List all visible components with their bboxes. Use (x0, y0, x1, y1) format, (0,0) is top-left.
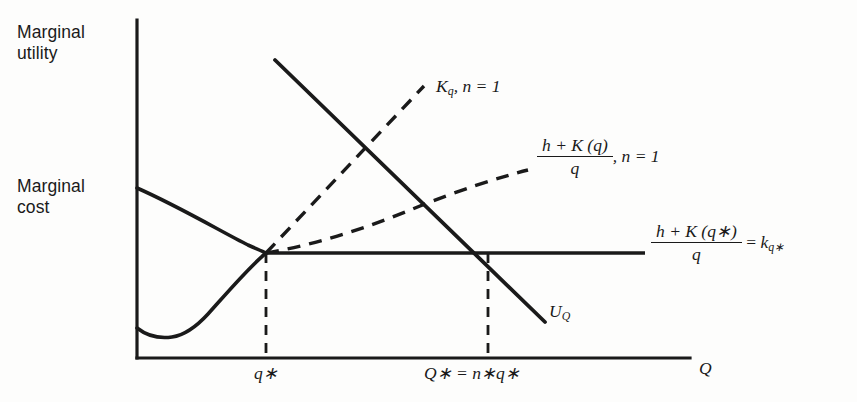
marginal-utility-curve-label: UQ (549, 301, 570, 324)
x-axis-label: Q (699, 358, 712, 379)
avg-cost-qstar-numerator: h + K (q∗) (651, 221, 742, 243)
avg-cost-n1-suffix: , n = 1 (613, 146, 660, 166)
avg-cost-falling-curve (137, 188, 266, 253)
x-tick-qstar: q∗ (254, 363, 278, 384)
uq-subscript: Q (562, 309, 571, 323)
avg-cost-qstar-equals: = (746, 232, 756, 252)
economics-figure: Marginal utility Marginal cost Kq, n = 1… (0, 0, 857, 402)
kq-suffix: , n = 1 (454, 76, 501, 96)
avg-cost-n1-numerator: h + K (q) (537, 135, 613, 157)
kq-symbol: K (436, 76, 448, 96)
avg-cost-qstar-label: h + K (q∗) q = kq∗ (651, 222, 784, 265)
y-axis-mid-label: Marginal cost (17, 176, 85, 217)
avg-cost-qstar-fraction: h + K (q∗) q (651, 221, 742, 264)
kq-n1-dashed-curve (266, 86, 424, 253)
avg-cost-n1-dashed-curve (266, 170, 528, 253)
avg-cost-n1-label: h + K (q) q , n = 1 (537, 136, 660, 179)
avg-cost-qstar-denominator: q (651, 243, 742, 264)
kqstar-result-symbol: k (760, 232, 768, 252)
uq-symbol: U (549, 301, 562, 321)
kq-curve-label: Kq, n = 1 (436, 76, 500, 99)
x-tick-Qstar: Q∗ = n∗q∗ (424, 363, 520, 384)
avg-cost-n1-denominator: q (537, 157, 613, 178)
marginal-cost-curve (137, 253, 266, 338)
avg-cost-n1-fraction: h + K (q) q (537, 135, 613, 178)
chart-canvas (0, 0, 857, 402)
y-axis-top-label: Marginal utility (17, 22, 85, 63)
kqstar-result-subscript: q∗ (768, 240, 784, 254)
